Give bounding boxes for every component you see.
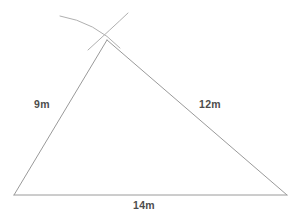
construction-arc-right-icon <box>88 13 128 50</box>
side-label-base: 14m <box>133 200 155 211</box>
side-label-right: 12m <box>199 99 221 110</box>
triangle-outline-group <box>14 40 287 195</box>
side-label-left: 9m <box>34 99 50 110</box>
triangle-figure: 9m 12m 14m <box>0 0 294 218</box>
construction-arcs-group <box>60 13 128 50</box>
triangle-side-right <box>107 40 287 195</box>
triangle-side-left <box>14 40 107 195</box>
